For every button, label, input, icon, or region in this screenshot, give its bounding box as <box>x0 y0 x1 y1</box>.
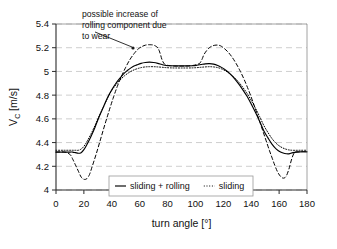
x-tick-label-140: 140 <box>243 198 259 209</box>
x-tick-label-120: 120 <box>215 198 231 209</box>
x-tick-label-160: 160 <box>271 198 287 209</box>
chart-container: 44.24.44.64.855.25.4 0204060801001201401… <box>0 0 337 249</box>
annotation-arrow-head <box>131 46 134 49</box>
x-tick-label-60: 60 <box>134 198 145 209</box>
x-tick-label-100: 100 <box>188 198 204 209</box>
y-title-main: V <box>7 119 19 126</box>
y-tick-label-5.2: 5.2 <box>36 42 49 53</box>
annotation-line-1: possible increase of <box>82 9 159 19</box>
chart-legend[interactable]: sliding + rollingsliding <box>109 176 253 196</box>
legend-label-1[interactable]: sliding <box>219 181 245 191</box>
annotation-line-2: rolling component due <box>82 20 167 30</box>
x-tick-label-40: 40 <box>106 198 117 209</box>
y-tick-label-4.6: 4.6 <box>36 113 49 124</box>
x-tick-label-80: 80 <box>162 198 173 209</box>
y-tick-label-4.8: 4.8 <box>36 90 49 101</box>
chart-background <box>0 0 337 249</box>
y-tick-label-4.4: 4.4 <box>36 137 49 148</box>
y-title-unit: [m/s] <box>7 88 19 114</box>
legend-label-0[interactable]: sliding + rolling <box>130 181 190 191</box>
x-tick-label-180: 180 <box>299 198 315 209</box>
y-tick-label-4: 4 <box>44 184 49 195</box>
y-axis-title: VC [m/s] <box>7 88 21 126</box>
y-tick-label-5: 5 <box>44 66 49 77</box>
y-tick-label-5.4: 5.4 <box>36 18 49 29</box>
y-tick-label-4.2: 4.2 <box>36 161 49 172</box>
x-tick-label-0: 0 <box>53 198 58 209</box>
x-tick-label-20: 20 <box>79 198 90 209</box>
x-axis-title: turn angle [°] <box>152 217 212 229</box>
line-chart: 44.24.44.64.855.25.4 0204060801001201401… <box>0 0 337 249</box>
y-axis-title-text: VC [m/s] <box>7 88 21 126</box>
